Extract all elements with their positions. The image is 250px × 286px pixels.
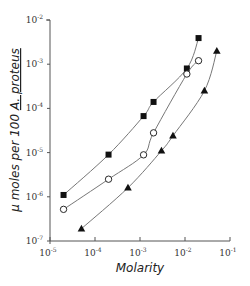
triangle-marker-icon xyxy=(201,87,209,94)
y-axis-title: μ moles per 100 A. proteus xyxy=(8,48,22,213)
axes: 10-510-410-310-210-110-710-610-510-410-3… xyxy=(26,13,237,258)
y-tick-label: 10-4 xyxy=(26,101,43,113)
series-line xyxy=(64,61,199,210)
series-circle-open xyxy=(60,58,201,213)
series-triangle-filled xyxy=(78,47,221,232)
chart: 10-510-410-310-210-110-710-610-510-410-3… xyxy=(0,0,250,286)
circle-marker-icon xyxy=(195,58,201,64)
y-tick-label: 10-7 xyxy=(26,234,43,246)
y-tick-label: 10-2 xyxy=(26,13,43,25)
square-marker-icon xyxy=(151,99,157,105)
circle-marker-icon xyxy=(184,71,190,77)
circle-marker-icon xyxy=(140,152,146,158)
x-tick-label: 10-1 xyxy=(219,246,236,258)
x-tick-label: 10-3 xyxy=(129,246,146,258)
x-tick-label: 10-5 xyxy=(39,246,56,258)
x-tick-label: 10-4 xyxy=(84,246,101,258)
square-marker-icon xyxy=(61,192,67,198)
series-line xyxy=(64,38,199,195)
square-marker-icon xyxy=(141,113,147,119)
y-tick-label: 10-6 xyxy=(26,190,43,202)
y-axis-title-species: A. proteus xyxy=(8,48,22,111)
triangle-marker-icon xyxy=(213,47,221,54)
circle-marker-icon xyxy=(105,176,111,182)
y-tick-label: 10-3 xyxy=(26,57,43,69)
y-axis-title-prefix: μ moles per 100 xyxy=(8,110,22,213)
series-square-filled xyxy=(61,35,202,198)
circle-marker-icon xyxy=(150,130,156,136)
series-layer xyxy=(60,35,220,231)
x-axis-title: Molarity xyxy=(116,261,165,275)
square-marker-icon xyxy=(106,152,112,158)
y-tick-label: 10-5 xyxy=(26,146,43,158)
square-marker-icon xyxy=(196,35,202,41)
circle-marker-icon xyxy=(60,206,66,212)
series-line xyxy=(81,51,216,229)
x-tick-label: 10-2 xyxy=(174,246,191,258)
triangle-marker-icon xyxy=(78,225,86,232)
